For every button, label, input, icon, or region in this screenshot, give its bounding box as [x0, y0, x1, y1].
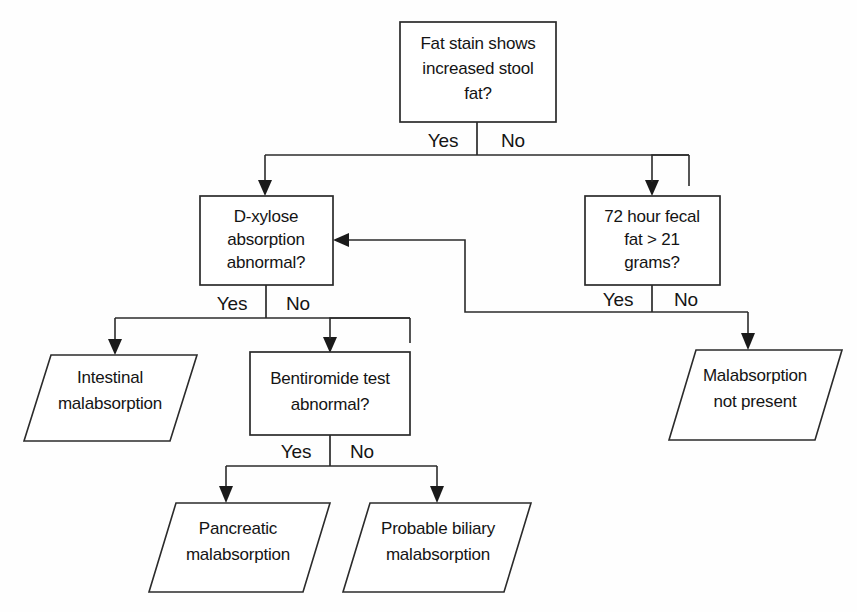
- intestinal-line-1: Intestinal: [77, 368, 143, 387]
- arrowhead-d-xylose-right: [333, 233, 349, 247]
- pancreatic-line-1: Pancreatic: [199, 519, 278, 538]
- edge-fecal-fat-yes-feedback: [345, 240, 612, 312]
- intestinal-line-2: malabsorption: [58, 394, 162, 413]
- bentiromide-line-1: Bentiromide test: [270, 369, 390, 388]
- branch-label-fat-stain-no: No: [501, 130, 525, 151]
- edge-fat-stain-split: [258, 122, 689, 196]
- node-no-malabsorption[interactable]: Malabsorption not present: [669, 350, 842, 440]
- arrowhead-pancreatic-top: [219, 486, 233, 503]
- node-fat-stain[interactable]: Fat stain shows increased stool fat?: [400, 22, 556, 122]
- branch-label-bentiromide-no: No: [350, 441, 374, 462]
- d-xylose-line-1: D-xylose: [234, 207, 299, 226]
- arrowhead-d-xylose-top: [258, 180, 272, 196]
- flowchart-canvas: Yes No Yes No Yes No Yes No Fat stain sh…: [0, 0, 857, 612]
- pancreatic-line-2: malabsorption: [186, 545, 290, 564]
- edge-d-xylose-split: [108, 285, 410, 355]
- arrowhead-fecal-fat-top: [645, 180, 659, 196]
- node-pancreatic[interactable]: Pancreatic malabsorption: [149, 503, 330, 592]
- branch-label-d-xylose-no: No: [286, 293, 310, 314]
- node-intestinal[interactable]: Intestinal malabsorption: [24, 355, 197, 441]
- fat-stain-line-1: Fat stain shows: [420, 34, 535, 53]
- fecal-fat-line-1: 72 hour fecal: [604, 207, 700, 226]
- node-d-xylose[interactable]: D-xylose absorption abnormal?: [200, 196, 333, 285]
- edge-d-xylose-no-leg: [330, 318, 410, 339]
- branch-label-bentiromide-yes: Yes: [281, 441, 311, 462]
- arrowhead-intestinal-top: [108, 339, 122, 355]
- bentiromide-box: [250, 352, 410, 435]
- branch-label-fat-stain-yes: Yes: [428, 130, 458, 151]
- edge-bentiromide-split: [219, 435, 444, 503]
- flowchart-diagram: Yes No Yes No Yes No Yes No Fat stain sh…: [0, 0, 857, 612]
- arrowhead-bentiromide-top: [323, 337, 337, 353]
- fat-stain-line-2: increased stool: [422, 59, 533, 78]
- branch-label-d-xylose-yes: Yes: [217, 293, 247, 314]
- fecal-fat-line-3: grams?: [624, 253, 680, 272]
- biliary-line-1: Probable biliary: [381, 519, 496, 538]
- edge-fat-stain-no-leg: [652, 155, 689, 182]
- branch-label-fecal-fat-yes: Yes: [603, 289, 633, 310]
- node-bentiromide[interactable]: Bentiromide test abnormal?: [250, 352, 410, 435]
- biliary-line-2: malabsorption: [386, 545, 490, 564]
- d-xylose-line-3: abnormal?: [227, 253, 306, 272]
- fat-stain-line-3: fat?: [464, 84, 492, 103]
- arrowhead-biliary-top: [430, 486, 444, 503]
- no-malabsorption-line-1: Malabsorption: [703, 366, 807, 385]
- bentiromide-line-2: abnormal?: [291, 395, 370, 414]
- no-malabsorption-line-2: not present: [714, 392, 797, 411]
- node-biliary[interactable]: Probable biliary malabsorption: [343, 503, 531, 592]
- branch-label-fecal-fat-no: No: [674, 289, 698, 310]
- fecal-fat-line-2: fat > 21: [624, 230, 680, 249]
- d-xylose-line-2: absorption: [227, 230, 304, 249]
- arrowhead-no-malabsorption-top: [741, 333, 755, 350]
- node-fecal-fat[interactable]: 72 hour fecal fat > 21 grams?: [585, 196, 720, 285]
